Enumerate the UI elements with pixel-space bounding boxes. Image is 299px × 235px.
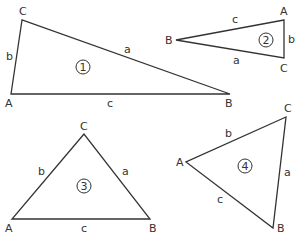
triangle-3-outline [12, 134, 150, 219]
triangle-1-vertex-a: A [5, 97, 13, 110]
triangle-4-side-a: a [284, 166, 291, 179]
triangle-3-vertex-a: A [5, 222, 13, 235]
triangle-1-vertex-c: C [19, 5, 27, 18]
triangle-1-side-b: b [6, 50, 13, 63]
triangle-3-vertex-b: B [149, 222, 157, 235]
triangle-3-number: 3 [81, 180, 88, 193]
triangle-2-side-c: c [232, 13, 238, 26]
triangle-1-side-a: a [124, 43, 131, 56]
triangle-3-side-b: b [38, 165, 45, 178]
triangle-2-number: 2 [263, 34, 270, 47]
triangle-1-side-c: c [107, 97, 113, 110]
triangle-4-vertex-c: C [284, 102, 292, 115]
triangle-4-vertex-b: B [277, 222, 285, 235]
triangle-4: C A B b a c 4 [176, 102, 292, 235]
triangle-4-vertex-a: A [176, 156, 184, 169]
triangle-3: C A B b a c 3 [5, 120, 157, 235]
triangle-1-outline [11, 20, 230, 94]
triangle-2-side-a: a [233, 54, 240, 67]
triangle-1-vertex-b: B [225, 97, 233, 110]
triangle-3-side-c: c [81, 222, 87, 235]
triangle-1: C A B b a c 1 [5, 5, 233, 110]
triangle-2-vertex-c: C [280, 62, 288, 75]
triangle-2: A B C c b a 2 [165, 5, 295, 75]
triangle-1-number: 1 [80, 61, 87, 74]
triangle-4-outline [186, 117, 286, 228]
triangle-4-side-b: b [225, 127, 232, 140]
triangles-diagram: C A B b a c 1 A B C c b a 2 C A B b a c … [0, 0, 299, 235]
triangle-3-side-a: a [122, 165, 129, 178]
triangle-3-vertex-c: C [80, 120, 88, 133]
triangle-4-number: 4 [242, 160, 249, 173]
triangle-2-side-b: b [288, 33, 295, 46]
triangle-4-side-c: c [217, 193, 223, 206]
triangle-2-vertex-a: A [280, 5, 288, 18]
triangle-2-vertex-b: B [165, 34, 173, 47]
